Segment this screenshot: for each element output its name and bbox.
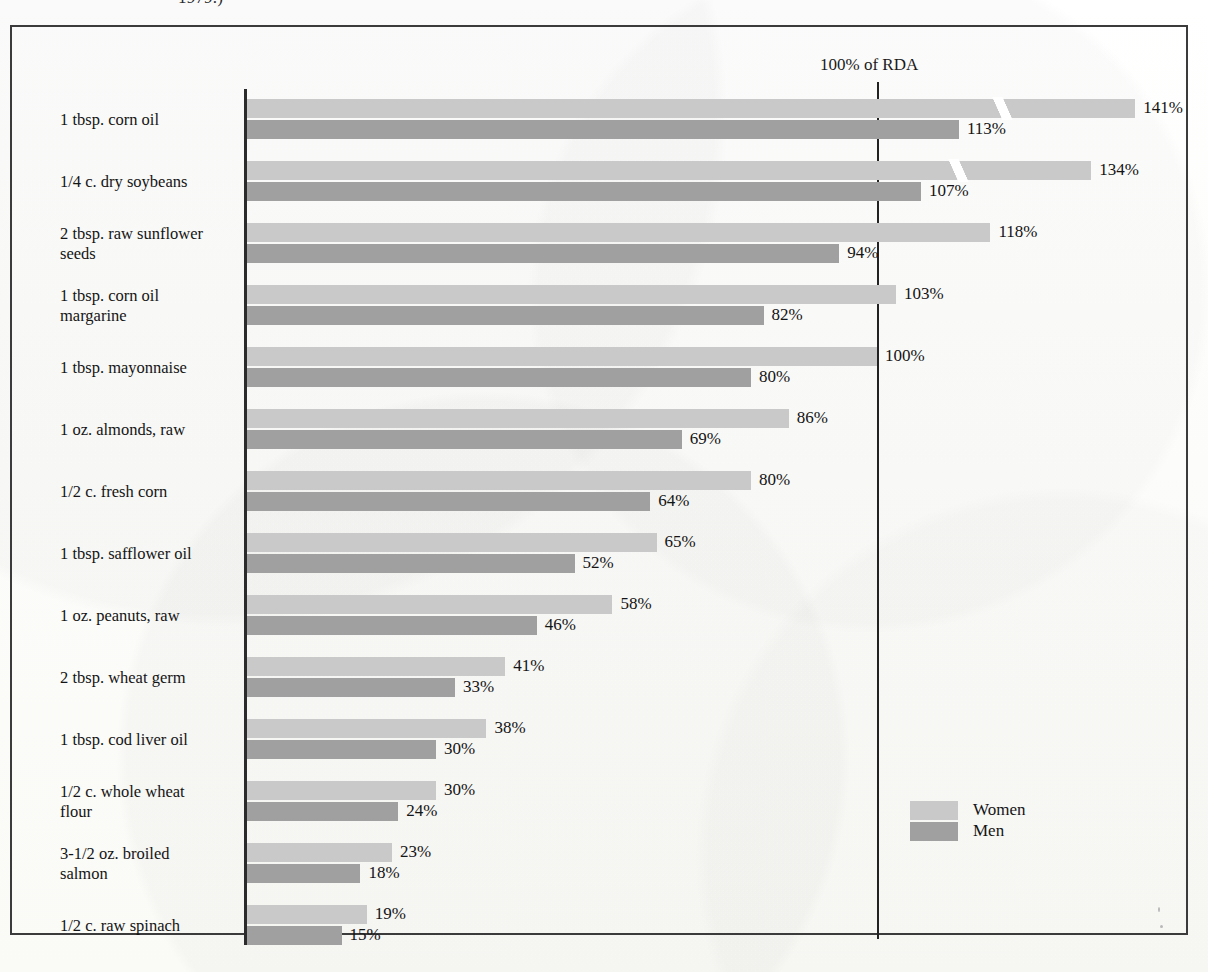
bar-value-label: 24%: [406, 801, 437, 821]
bar-women: 103%: [247, 285, 896, 304]
category-label-line: 1 oz. peanuts, raw: [60, 606, 248, 626]
legend-label-women: Women: [973, 800, 1025, 820]
bar-women: 118%: [247, 223, 990, 242]
category-label-line: 1 tbsp. mayonnaise: [60, 358, 248, 378]
reference-line-label: 100% of RDA: [820, 55, 918, 75]
bar-women: 23%: [247, 843, 392, 862]
category-label-line: 1 tbsp. corn oil: [60, 110, 248, 130]
figure-frame: 100% of RDA 1 tbsp. corn oil141%113%1/4 …: [10, 25, 1188, 935]
bar-value-label: 38%: [494, 718, 525, 738]
bar-women: 80%: [247, 471, 751, 490]
bar-men: 18%: [247, 864, 360, 883]
bar-value-label: 30%: [444, 739, 475, 759]
scan-speck: [1158, 907, 1160, 912]
bar-value-label: 46%: [545, 615, 576, 635]
bar-women: 134%: [247, 161, 1091, 180]
bar-women: 30%: [247, 781, 436, 800]
category-label: 1 tbsp. corn oilmargarine: [60, 286, 248, 326]
bar-women: 41%: [247, 657, 505, 676]
category-label-line: flour: [60, 802, 248, 822]
bar-value-label: 19%: [375, 904, 406, 924]
bar-value-label: 82%: [772, 305, 803, 325]
scale-break-slash-icon: [946, 159, 972, 182]
bar-women: 19%: [247, 905, 367, 924]
category-label-line: 1/2 c. raw spinach: [60, 916, 248, 936]
bar-value-label: 69%: [690, 429, 721, 449]
caption-fragment: 1979.): [178, 0, 223, 8]
bar-value-label: 134%: [1099, 160, 1139, 180]
bar-value-label: 30%: [444, 780, 475, 800]
category-label: 1 tbsp. cod liver oil: [60, 730, 248, 750]
bar-value-label: 103%: [904, 284, 944, 304]
bar-women: 38%: [247, 719, 486, 738]
category-label: 2 tbsp. wheat germ: [60, 668, 248, 688]
bar-men: 33%: [247, 678, 455, 697]
bar-men: 69%: [247, 430, 682, 449]
category-label-line: 1 tbsp. safflower oil: [60, 544, 248, 564]
category-label-line: 3-1/2 oz. broiled: [60, 844, 248, 864]
category-label-line: 1 oz. almonds, raw: [60, 420, 248, 440]
bar-women: 141%: [247, 99, 1135, 118]
category-label-line: 1/2 c. whole wheat: [60, 782, 248, 802]
bar-value-label: 141%: [1143, 98, 1183, 118]
category-label: 1 tbsp. safflower oil: [60, 544, 248, 564]
bar-women: 86%: [247, 409, 789, 428]
bar-value-label: 64%: [658, 491, 689, 511]
bar-value-label: 113%: [967, 119, 1006, 139]
category-label: 1 tbsp. corn oil: [60, 110, 248, 130]
category-label-line: margarine: [60, 306, 248, 326]
category-label: 1 oz. almonds, raw: [60, 420, 248, 440]
bar-value-label: 80%: [759, 367, 790, 387]
bar-women: 58%: [247, 595, 612, 614]
category-label: 2 tbsp. raw sunflowerseeds: [60, 224, 248, 264]
bar-men: 107%: [247, 182, 921, 201]
bar-men: 80%: [247, 368, 751, 387]
bar-value-label: 58%: [620, 594, 651, 614]
bar-men: 46%: [247, 616, 537, 635]
bar-men: 30%: [247, 740, 436, 759]
category-label-line: seeds: [60, 244, 248, 264]
category-label-line: 2 tbsp. raw sunflower: [60, 224, 248, 244]
bar-men: 82%: [247, 306, 764, 325]
bar-value-label: 18%: [368, 863, 399, 883]
bar-value-label: 41%: [513, 656, 544, 676]
bar-men: 24%: [247, 802, 398, 821]
legend-label-men: Men: [973, 821, 1004, 841]
bar-value-label: 107%: [929, 181, 969, 201]
category-label-line: 2 tbsp. wheat germ: [60, 668, 248, 688]
category-label: 1/2 c. fresh corn: [60, 482, 248, 502]
bar-chart-plot-area: 100% of RDA 1 tbsp. corn oil141%113%1/4 …: [12, 27, 1186, 933]
bar-value-label: 33%: [463, 677, 494, 697]
reference-line-100-percent: [877, 82, 879, 939]
bar-men: 94%: [247, 244, 839, 263]
category-label-line: 1/4 c. dry soybeans: [60, 172, 248, 192]
bar-value-label: 100%: [885, 346, 925, 366]
legend-swatch-men-icon: [910, 822, 958, 841]
category-label: 1/4 c. dry soybeans: [60, 172, 248, 192]
bar-value-label: 94%: [847, 243, 878, 263]
category-label-line: 1 tbsp. cod liver oil: [60, 730, 248, 750]
bar-value-label: 118%: [998, 222, 1037, 242]
bar-value-label: 23%: [400, 842, 431, 862]
bar-value-label: 15%: [350, 925, 381, 945]
bar-value-label: 86%: [797, 408, 828, 428]
category-label-line: salmon: [60, 864, 248, 884]
bar-women: 100%: [247, 347, 877, 366]
category-label: 1/2 c. whole wheatflour: [60, 782, 248, 822]
bar-value-label: 80%: [759, 470, 790, 490]
category-label: 3-1/2 oz. broiledsalmon: [60, 844, 248, 884]
legend-swatch-women-icon: [910, 801, 958, 820]
bar-value-label: 52%: [583, 553, 614, 573]
scan-speck: [1160, 925, 1163, 928]
bar-women: 65%: [247, 533, 657, 552]
bar-value-label: 65%: [665, 532, 696, 552]
scale-break-slash-icon: [990, 97, 1016, 120]
category-label: 1/2 c. raw spinach: [60, 916, 248, 936]
category-label: 1 tbsp. mayonnaise: [60, 358, 248, 378]
bar-men: 15%: [247, 926, 342, 945]
bar-men: 64%: [247, 492, 650, 511]
category-label-line: 1 tbsp. corn oil: [60, 286, 248, 306]
category-label: 1 oz. peanuts, raw: [60, 606, 248, 626]
bar-men: 113%: [247, 120, 959, 139]
bar-men: 52%: [247, 554, 575, 573]
